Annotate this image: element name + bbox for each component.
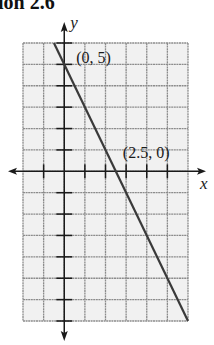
graph: x y (0, 5) (2.5, 0) (0, 0, 214, 345)
y-axis-label: y (68, 13, 78, 32)
point-label-x-intercept: (2.5, 0) (123, 144, 170, 162)
point-label-y-intercept: (0, 5) (76, 49, 111, 67)
x-axis-label: x (199, 174, 208, 193)
